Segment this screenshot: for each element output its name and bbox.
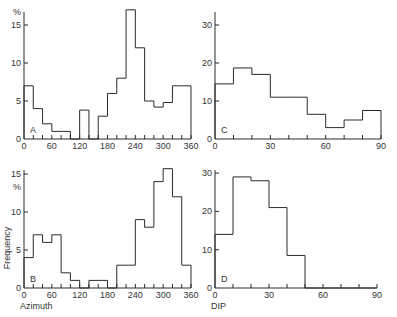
panel-letter: D bbox=[221, 274, 228, 284]
x-tick-label: 0 bbox=[212, 141, 217, 151]
y-tick-label: 30 bbox=[202, 20, 212, 30]
histogram-figure: 060120180240300360051015%A03060900102030… bbox=[0, 0, 397, 317]
panel-b: 060120180240300360051015%BAzimuthFrequen… bbox=[2, 169, 199, 311]
x-tick-label: 0 bbox=[212, 290, 217, 300]
y-unit-label: % bbox=[13, 182, 21, 192]
y-tick-label: 15 bbox=[11, 20, 21, 30]
x-tick-label: 120 bbox=[72, 141, 87, 151]
histogram-bars bbox=[215, 68, 381, 139]
y-tick-label: 30 bbox=[202, 168, 212, 178]
y-tick-label: 10 bbox=[11, 58, 21, 68]
y-tick-label: 0 bbox=[207, 134, 212, 144]
y-tick-label: 20 bbox=[202, 206, 212, 216]
panel-c: 03060900102030C bbox=[202, 12, 386, 151]
x-tick-label: 0 bbox=[21, 290, 26, 300]
x-tick-label: 240 bbox=[128, 141, 143, 151]
x-tick-label: 300 bbox=[156, 141, 171, 151]
x-tick-label: 60 bbox=[318, 290, 328, 300]
x-tick-label: 180 bbox=[100, 290, 115, 300]
y-tick-label: 0 bbox=[207, 283, 212, 293]
panel-letter: B bbox=[30, 274, 36, 284]
y-tick-label: 15 bbox=[11, 169, 21, 179]
x-tick-label: 30 bbox=[265, 141, 275, 151]
x-tick-label: 360 bbox=[183, 141, 198, 151]
y-tick-label: 5 bbox=[16, 96, 21, 106]
panel-d: 03060900102030DDIP bbox=[202, 168, 382, 311]
x-tick-label: 60 bbox=[47, 141, 57, 151]
plot-canvas: 060120180240300360051015%A03060900102030… bbox=[0, 0, 397, 317]
x-tick-label: 30 bbox=[264, 290, 274, 300]
y-tick-label: 20 bbox=[202, 58, 212, 68]
x-tick-label: 180 bbox=[100, 141, 115, 151]
x-tick-label: 300 bbox=[156, 290, 171, 300]
y-tick-label: 0 bbox=[16, 134, 21, 144]
histogram-bars bbox=[24, 169, 191, 288]
y-tick-label: 10 bbox=[11, 207, 21, 217]
y-tick-label: 5 bbox=[16, 245, 21, 255]
x-tick-label: 90 bbox=[372, 290, 382, 300]
x-tick-label: 90 bbox=[376, 141, 386, 151]
x-tick-label: 0 bbox=[21, 141, 26, 151]
x-axis-label: Azimuth bbox=[20, 301, 53, 311]
y-unit-label: % bbox=[13, 7, 21, 17]
x-tick-label: 120 bbox=[72, 290, 87, 300]
histogram-bars bbox=[215, 177, 377, 288]
x-tick-label: 240 bbox=[128, 290, 143, 300]
y-tick-label: 10 bbox=[202, 245, 212, 255]
x-tick-label: 360 bbox=[183, 290, 198, 300]
panel-a: 060120180240300360051015%A bbox=[11, 7, 199, 151]
x-tick-label: 60 bbox=[47, 290, 57, 300]
panel-letter: A bbox=[30, 125, 36, 135]
x-tick-label: 60 bbox=[321, 141, 331, 151]
y-tick-label: 10 bbox=[202, 96, 212, 106]
x-axis-label: DIP bbox=[211, 301, 226, 311]
histogram-bars bbox=[24, 10, 191, 139]
y-tick-label: 0 bbox=[16, 283, 21, 293]
y-axis-label: Frequency bbox=[2, 226, 12, 269]
panel-letter: C bbox=[221, 125, 228, 135]
